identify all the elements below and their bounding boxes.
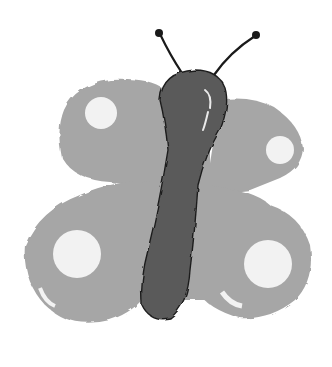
butterfly-illustration bbox=[0, 0, 332, 367]
left-upper-wing bbox=[59, 80, 165, 190]
antennae bbox=[155, 29, 260, 75]
butterfly-drawing bbox=[0, 0, 332, 367]
